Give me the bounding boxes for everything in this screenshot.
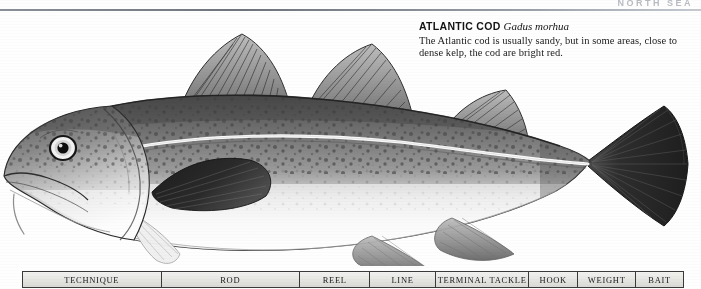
spec-col-reel: REEL <box>300 272 370 287</box>
field-guide-page: NORTH SEA ATLANTIC COD Gadus morhua The … <box>0 0 701 289</box>
fish-illustration <box>0 14 701 266</box>
chin-barbel <box>13 194 24 234</box>
anal-fin-first <box>353 236 432 266</box>
caudal-fin <box>588 106 688 226</box>
spec-col-weight: WEIGHT <box>578 272 636 287</box>
spec-table: TECHNIQUE ROD REEL LINE TERMINAL TACKLE … <box>22 271 684 288</box>
anal-fin-second <box>435 218 514 260</box>
spec-col-rod: ROD <box>162 272 301 287</box>
spec-col-hook: HOOK <box>529 272 578 287</box>
header-rule <box>0 9 701 11</box>
fish-illustration-svg <box>0 14 701 266</box>
spec-col-technique: TECHNIQUE <box>23 272 162 287</box>
eye <box>50 136 76 160</box>
running-head: NORTH SEA <box>617 0 693 8</box>
spec-col-line: LINE <box>370 272 436 287</box>
spec-col-bait: BAIT <box>636 272 683 287</box>
spec-col-terminal-tackle: TERMINAL TACKLE <box>436 272 530 287</box>
